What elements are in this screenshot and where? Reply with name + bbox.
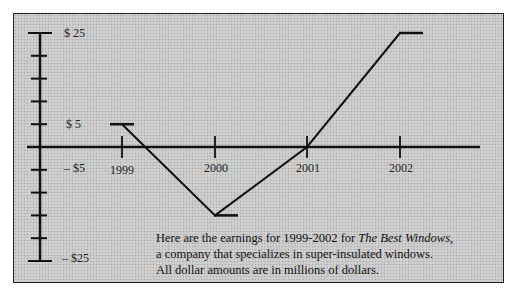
y-label-25: $ 25 xyxy=(64,26,85,41)
y-label-neg25: – $25 xyxy=(62,251,89,266)
caption-line-1: Here are the earnings for 1999-2002 for xyxy=(156,231,358,245)
caption-line-3: All dollar amounts are in millions of do… xyxy=(156,262,453,278)
x-label-2000: 2000 xyxy=(204,161,228,176)
earnings-line xyxy=(122,33,400,215)
data-point-markers xyxy=(110,33,423,215)
x-label-1999: 1999 xyxy=(110,163,134,178)
company-name: The Best Windows, xyxy=(358,231,453,245)
chart-caption: Here are the earnings for 1999-2002 for … xyxy=(156,230,453,278)
x-label-2001: 2001 xyxy=(296,161,320,176)
y-label-5: $ 5 xyxy=(66,117,81,132)
x-label-2002: 2002 xyxy=(389,161,413,176)
caption-line-2: a company that specializes in super-insu… xyxy=(156,246,453,262)
y-label-neg5: – $5 xyxy=(64,161,85,176)
